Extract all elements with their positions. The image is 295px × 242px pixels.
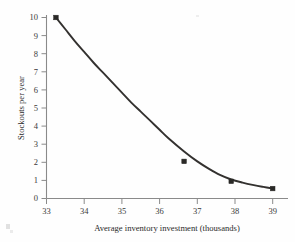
y-tick-label-3: 3: [34, 139, 38, 149]
y-axis-title: Stockouts per year: [16, 76, 26, 140]
x-tick-label-33: 33: [42, 206, 51, 216]
scan-artifact: [10, 230, 13, 233]
y-tick-label-0: 0: [34, 193, 38, 203]
y-tick-label-2: 2: [34, 157, 38, 167]
data-markers: [54, 15, 275, 191]
scan-artifact: [196, 15, 199, 17]
x-tick-label-35: 35: [118, 206, 127, 216]
x-tick-label-36: 36: [155, 206, 164, 216]
y-tick-label-10: 10: [30, 12, 39, 22]
y-tick-label-5: 5: [34, 103, 38, 113]
y-tick-label-6: 6: [34, 85, 38, 95]
y-tick-label-7: 7: [34, 67, 38, 77]
data-point-marker: [182, 159, 187, 164]
data-curve: [56, 18, 273, 189]
x-tick-label-34: 34: [80, 206, 89, 216]
x-tick-label-39: 39: [268, 206, 277, 216]
data-point-marker: [229, 179, 234, 184]
chart-figure: 0 1 2 3 4 5 6 7 8 9 10 33 34 35 36 37 38…: [0, 0, 295, 242]
y-tick-label-1: 1: [34, 175, 38, 185]
x-tick-label-37: 37: [193, 206, 202, 216]
scan-artifact: [6, 224, 10, 229]
x-tick-label-38: 38: [231, 206, 240, 216]
y-tick-label-4: 4: [34, 121, 39, 131]
y-tick-label-8: 8: [34, 49, 38, 59]
y-tick-label-9: 9: [34, 31, 38, 41]
stockouts-vs-inventory-chart: 0 1 2 3 4 5 6 7 8 9 10 33 34 35 36 37 38…: [0, 0, 295, 242]
x-axis-ticks: [47, 199, 273, 205]
x-axis-title: Average inventory investment (thousands): [94, 223, 240, 233]
y-axis-ticks: [42, 18, 47, 199]
data-point-marker: [54, 15, 59, 20]
data-point-marker: [270, 186, 275, 191]
